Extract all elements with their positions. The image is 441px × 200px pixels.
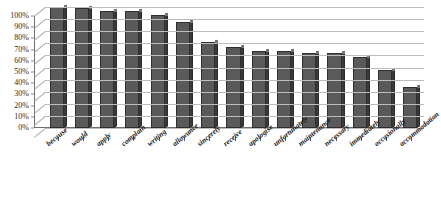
bar-top-face [114,9,117,12]
bar-front-face [176,22,190,128]
bar-side-face [190,19,193,128]
bar [100,11,114,128]
gridline [45,80,424,81]
plot-area [34,7,424,137]
gridline [45,68,424,69]
bar-top-face [316,51,319,54]
bar [176,22,190,128]
y-axis-tick-label: 60% [14,57,29,65]
bar-top-face [241,45,244,48]
y-axis: 100%90%80%70%60%50%40%30%20%10%0% [0,0,34,200]
bar [125,11,139,128]
bar-top-face [139,9,142,12]
bar-top-face [417,85,420,88]
bar-side-face [215,40,218,128]
gridline [45,104,424,105]
y-axis-tick-label: 20% [14,102,29,110]
y-axis-tick-label: 90% [14,23,29,31]
gridline [45,116,424,117]
y-axis-tick-label: 100% [10,12,29,20]
y-axis-tick-label: 40% [14,79,29,87]
bar-front-face [125,11,139,128]
bar-top-face [291,49,294,52]
gridline [45,55,424,56]
gridline [45,43,424,44]
bar-top-face [266,49,269,52]
bar-side-face [64,5,67,128]
bar-top-face [342,51,345,54]
y-axis-tick-label: 30% [14,90,29,98]
y-axis-tick-label: 0% [18,124,29,132]
x-axis-labels: becausewouldapplycomplainwritingallowanc… [34,140,427,200]
y-axis-tick-label: 70% [14,46,29,54]
gridline [45,7,424,8]
gridline [45,19,424,20]
bar-top-face [165,13,168,16]
gridline [45,92,424,93]
y-axis-tick-label: 80% [14,34,29,42]
y-axis-tick-label: 50% [14,68,29,76]
y-axis-tick-label: 10% [14,113,29,121]
gridline [45,31,424,32]
bar-front-face [151,15,165,128]
bar-front-face [100,11,114,128]
bar-side-face [392,68,395,128]
bar [151,15,165,128]
